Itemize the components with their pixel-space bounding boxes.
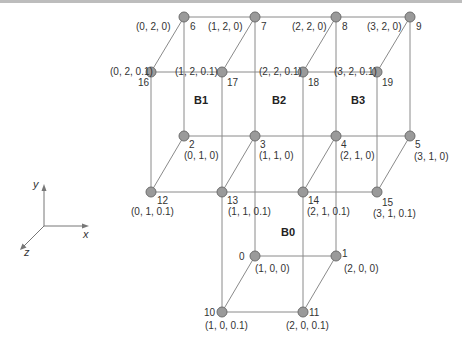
node-coord-13: (1, 1, 0.1) bbox=[228, 206, 271, 217]
axis-triad: y x z bbox=[20, 178, 89, 258]
y-arrowhead-icon bbox=[42, 184, 47, 191]
node-coord-17: (1, 2, 0.1) bbox=[175, 66, 218, 77]
node-id-19: 19 bbox=[382, 77, 394, 88]
block-label-b0: B0 bbox=[281, 226, 295, 238]
node-coord-11: (2, 0, 0.1) bbox=[286, 320, 329, 331]
node-0 bbox=[250, 251, 260, 261]
node-6 bbox=[179, 12, 189, 22]
block-label-b3: B3 bbox=[351, 94, 365, 106]
node-coord-2: (0, 1, 0) bbox=[184, 150, 218, 161]
node-12 bbox=[146, 187, 156, 197]
node-1 bbox=[331, 251, 341, 261]
node-id-17: 17 bbox=[227, 77, 239, 88]
node-id-11: 11 bbox=[309, 307, 320, 318]
node-id-2: 2 bbox=[189, 139, 195, 150]
node-14 bbox=[298, 187, 308, 197]
node-id-8: 8 bbox=[342, 21, 348, 32]
node-id-6: 6 bbox=[190, 21, 196, 32]
node-5 bbox=[405, 131, 415, 141]
node-coord-18: (2, 2, 0.1) bbox=[259, 66, 302, 77]
node-coord-12: (0, 1, 0.1) bbox=[131, 206, 174, 217]
node-coord-9: (3, 2, 0) bbox=[367, 21, 401, 32]
node-id-3: 3 bbox=[260, 139, 266, 150]
node-4 bbox=[331, 131, 341, 141]
node-9 bbox=[405, 12, 415, 22]
node-id-0: 0 bbox=[239, 251, 245, 262]
node-coord-0: (1, 0, 0) bbox=[255, 263, 289, 274]
node-coord-7: (1, 2, 0) bbox=[208, 21, 242, 32]
node-15 bbox=[372, 187, 382, 197]
node-id-12: 12 bbox=[157, 195, 169, 206]
node-id-18: 18 bbox=[308, 77, 320, 88]
node-coord-19: (3, 2, 0.1) bbox=[334, 66, 377, 77]
node-coord-16: (0, 2, 0.1) bbox=[110, 66, 153, 77]
node-coord-4: (2, 1, 0) bbox=[340, 150, 374, 161]
node-id-13: 13 bbox=[227, 195, 239, 206]
node-10 bbox=[217, 307, 227, 317]
node-id-16: 16 bbox=[138, 77, 150, 88]
node-11 bbox=[298, 307, 308, 317]
node-coord-14: (2, 1, 0.1) bbox=[307, 206, 350, 217]
node-3 bbox=[250, 131, 260, 141]
node-id-7: 7 bbox=[261, 21, 267, 32]
node-2 bbox=[179, 131, 189, 141]
node-coord-15: (3, 1, 0.1) bbox=[373, 208, 416, 219]
node-id-4: 4 bbox=[341, 139, 347, 150]
hexahedral-mesh-diagram: y x z B0 B1 B2 B3 0 1 2 3 bbox=[0, 0, 462, 347]
z-axis-label: z bbox=[23, 246, 30, 258]
node-coord-6: (0, 2, 0) bbox=[136, 21, 170, 32]
z-axis-arrow bbox=[23, 226, 44, 247]
node-coord-8: (2, 2, 0) bbox=[292, 21, 326, 32]
node-13 bbox=[217, 187, 227, 197]
node-coord-5: (3, 1, 0) bbox=[414, 151, 448, 162]
node-id-10: 10 bbox=[204, 307, 216, 318]
node-17 bbox=[217, 67, 227, 77]
block-label-b1: B1 bbox=[194, 94, 208, 106]
node-8 bbox=[331, 12, 341, 22]
block-label-b2: B2 bbox=[272, 94, 286, 106]
node-coord-1: (2, 0, 0) bbox=[344, 263, 378, 274]
x-axis-label: x bbox=[82, 228, 89, 240]
node-id-9: 9 bbox=[416, 21, 422, 32]
node-id-14: 14 bbox=[308, 195, 320, 206]
node-id-1: 1 bbox=[342, 248, 348, 259]
y-axis-label: y bbox=[32, 178, 40, 190]
node-id-5: 5 bbox=[415, 139, 421, 150]
node-7 bbox=[250, 12, 260, 22]
node-id-15: 15 bbox=[382, 197, 394, 208]
node-coord-10: (1, 0, 0.1) bbox=[205, 320, 248, 331]
node-coord-3: (1, 1, 0) bbox=[259, 150, 293, 161]
